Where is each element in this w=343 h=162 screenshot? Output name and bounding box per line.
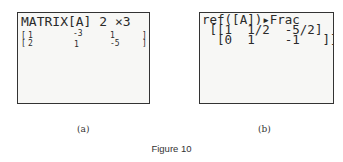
calculator-screen-a: MATRIX[A] 2 ×3 [ 1 -3 1 ] [ 2 1 -5 ] <box>17 12 150 104</box>
caption-b: (b) <box>258 124 271 134</box>
cell-r1c2: -3 <box>73 30 83 38</box>
calculator-screen-b: ref([A])▸Frac [[1 1/2 -5/2] [0 1 -1 ]] <box>199 12 334 104</box>
cell-r2c1: 2 <box>28 40 33 48</box>
row2-close-bracket: ] <box>142 40 147 48</box>
cell-r2c3: -5 <box>110 40 120 48</box>
caption-a: (a) <box>77 124 89 134</box>
row2-open-bracket: [ <box>21 40 26 48</box>
figure-caption: Figure 10 <box>0 143 343 154</box>
matrix-title: MATRIX[A] 2 ×3 <box>21 14 131 29</box>
result-row-2: [0 1 -1 ]] <box>202 35 334 45</box>
cell-r2c2: 1 <box>74 41 79 49</box>
